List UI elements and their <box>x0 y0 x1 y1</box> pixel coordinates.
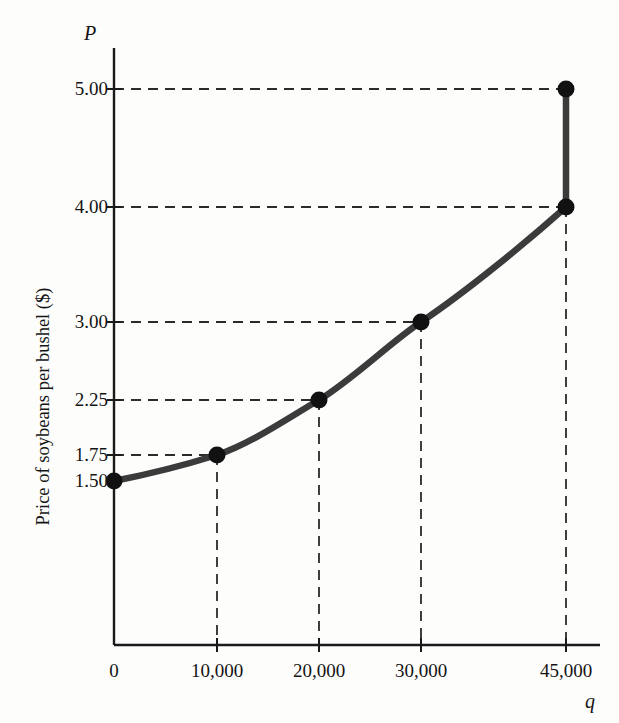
data-point-45000-high <box>558 81 575 98</box>
p-axis-symbol: P <box>84 22 96 45</box>
supply-curve-line <box>114 89 566 481</box>
supply-curve-figure: P q Price of soybeans per bushel ($) 5.0… <box>0 0 619 723</box>
xtick-label-30000: 30,000 <box>395 660 447 682</box>
data-point-0 <box>106 473 123 490</box>
ytick-label-1-50: 1.50 <box>42 471 108 490</box>
dashed-horizontal-guides <box>114 89 566 455</box>
ytick-label-3-00: 3.00 <box>42 312 108 331</box>
xtick-label-10000: 10,000 <box>191 660 243 682</box>
ytick-label-4-00: 4.00 <box>42 197 108 216</box>
ytick-label-5-00: 5.00 <box>42 79 108 98</box>
xtick-label-0: 0 <box>109 660 119 682</box>
q-axis-symbol: q <box>585 690 595 713</box>
data-point-30000 <box>413 314 430 331</box>
ytick-label-2-25: 2.25 <box>42 390 108 409</box>
data-point-45000-low <box>558 199 575 216</box>
ytick-label-1-75: 1.75 <box>42 445 108 464</box>
dashed-vertical-guides <box>217 207 566 645</box>
xtick-label-20000: 20,000 <box>293 660 345 682</box>
xtick-label-45000: 45,000 <box>540 660 592 682</box>
chart-canvas <box>0 0 619 723</box>
data-point-10000 <box>209 447 226 464</box>
data-point-20000 <box>311 392 328 409</box>
data-point-markers <box>106 81 575 490</box>
